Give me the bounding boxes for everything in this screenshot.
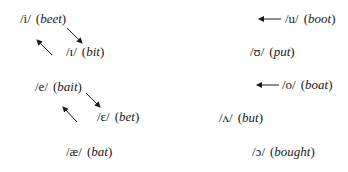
- example-word: bait: [57, 79, 77, 94]
- vowel-label-bet: /ɛ/(bet): [97, 110, 139, 124]
- arrow-bet-to-bait-icon: [63, 107, 77, 122]
- example-word: bit: [86, 44, 100, 59]
- ipa-symbol: /æ/: [66, 144, 82, 159]
- ipa-symbol: /e/: [35, 79, 48, 94]
- vowel-label-bit: /ɪ/(bit): [66, 45, 104, 59]
- example-word: but: [242, 110, 259, 125]
- vowel-label-boat: /o/(boat): [282, 78, 333, 92]
- example-word: bat: [91, 144, 108, 159]
- arrow-beet-to-bit-icon: [67, 28, 82, 43]
- ipa-symbol: /ʌ/: [219, 110, 233, 125]
- vowel-label-bought: /ɔ/(bought): [252, 145, 315, 159]
- vowel-label-bait: /e/(bait): [35, 80, 82, 94]
- vowel-label-put: /ʊ/(put): [250, 45, 295, 59]
- example-word: beet: [40, 11, 62, 26]
- example-word: boat: [305, 77, 328, 92]
- example-word: bet: [119, 109, 135, 124]
- ipa-symbol: /ɔ/: [252, 144, 265, 159]
- vowel-label-beet: /i/(beet): [20, 12, 66, 26]
- ipa-symbol: /ɪ/: [66, 44, 77, 59]
- example-word: put: [274, 44, 291, 59]
- vowel-label-bat: /æ/(bat): [66, 145, 112, 159]
- ipa-symbol: /o/: [282, 77, 296, 92]
- ipa-symbol: /i/: [20, 11, 31, 26]
- vowel-label-but: /ʌ/(but): [219, 111, 263, 125]
- ipa-symbol: /u/: [285, 11, 299, 26]
- example-word: bought: [274, 144, 310, 159]
- ipa-symbol: /ɛ/: [97, 109, 110, 124]
- arrow-bit-to-beet-icon: [37, 40, 52, 55]
- example-word: boot: [308, 11, 331, 26]
- arrow-bait-to-bet-icon: [86, 93, 100, 107]
- vowel-label-boot: /u/(boot): [285, 12, 336, 26]
- ipa-symbol: /ʊ/: [250, 44, 264, 59]
